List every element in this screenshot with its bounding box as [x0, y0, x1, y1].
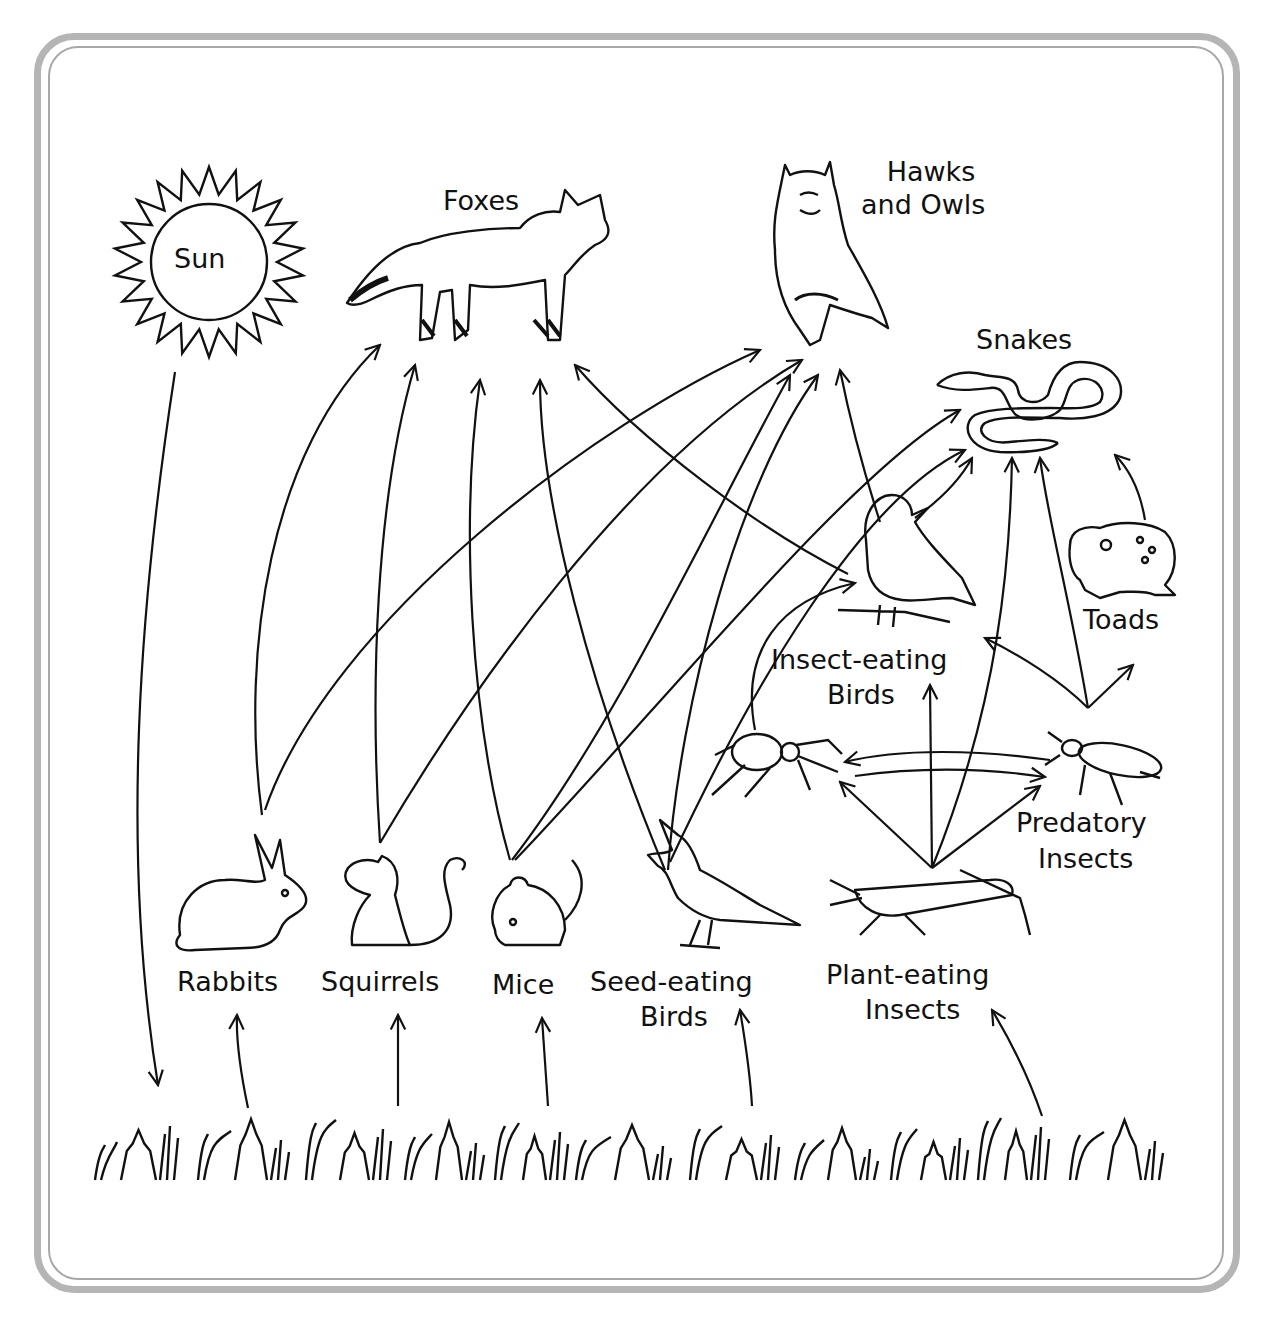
label-foxes: Foxes: [443, 184, 519, 217]
label-insect-birds: Birds: [827, 678, 895, 711]
food-web-diagram: [0, 0, 1264, 1328]
label-snakes: Snakes: [976, 323, 1072, 356]
squirrel-icon: [345, 856, 465, 945]
plants-icon: [95, 1118, 1163, 1180]
label-plant-insects: Insects: [865, 993, 960, 1026]
label-predatory: Predatory: [1016, 806, 1147, 839]
insect-eating-bird-icon: [838, 495, 975, 627]
label-seed-eating: Seed-eating: [590, 965, 753, 998]
toad-icon: [1069, 523, 1175, 598]
rabbit-icon: [176, 835, 306, 950]
label-sun: Sun: [174, 242, 225, 275]
label-hawks: Hawks: [885, 155, 977, 188]
label-seed-birds: Birds: [640, 1000, 708, 1033]
label-mice: Mice: [492, 968, 554, 1001]
bottom-strip: [0, 1312, 1264, 1328]
label-plant-eating: Plant-eating: [826, 958, 989, 991]
label-squirrels: Squirrels: [321, 965, 439, 998]
snake-icon: [937, 362, 1121, 452]
plant-eating-insect-icon: [830, 870, 1030, 935]
label-predatory-insects: Insects: [1038, 842, 1133, 875]
spider-icon: [712, 734, 842, 797]
label-rabbits: Rabbits: [177, 965, 278, 998]
label-and-owls: and Owls: [861, 188, 985, 221]
predatory-insect-icon: [1045, 732, 1164, 805]
mouse-icon: [492, 860, 581, 945]
label-toads: Toads: [1083, 603, 1159, 636]
label-insect-eating: Insect-eating: [771, 643, 947, 676]
